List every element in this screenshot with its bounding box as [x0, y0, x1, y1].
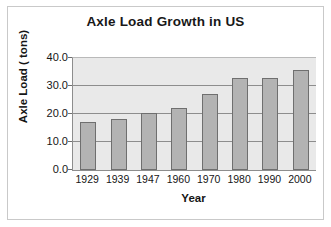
x-axis-tick-label: 1980	[224, 173, 254, 187]
bar-slot	[225, 58, 255, 170]
bar-slot	[195, 58, 225, 170]
x-axis-tick-label: 1970	[194, 173, 224, 187]
x-axis-tick-label: 2000	[285, 173, 315, 187]
bar	[111, 119, 127, 170]
bar	[262, 78, 278, 170]
x-axis-tick-label: 1939	[102, 173, 132, 187]
bar	[80, 122, 96, 170]
y-axis-tick-label: 20.0	[26, 108, 68, 119]
bar	[232, 78, 248, 170]
y-axis-tick-label: 0.0	[26, 164, 68, 175]
x-axis-tick-label: 1929	[72, 173, 102, 187]
bar-slot	[103, 58, 133, 170]
bars-layer	[73, 58, 316, 170]
bar-slot	[164, 58, 194, 170]
y-axis-tick-labels: 40.0 30.0 20.0 10.0 0.0	[26, 0, 68, 227]
y-axis-tick-label: 30.0	[26, 80, 68, 91]
x-axis-tick-label: 1947	[133, 173, 163, 187]
bar	[171, 108, 187, 170]
x-axis-tick-label: 1960	[163, 173, 193, 187]
bar-slot	[134, 58, 164, 170]
bar-slot	[255, 58, 285, 170]
x-axis-title: Year	[72, 192, 315, 205]
bar	[293, 70, 309, 170]
y-axis-tick-label: 40.0	[26, 52, 68, 63]
chart-screenshot: Axle Load Growth in US 40.0 30.0 20.0 10…	[0, 0, 331, 227]
plot-area	[72, 57, 316, 171]
x-axis-tick-labels: 19291939194719601970198019902000	[72, 173, 315, 187]
y-axis-tick-label: 10.0	[26, 136, 68, 147]
bar	[141, 113, 157, 170]
bar-slot	[73, 58, 103, 170]
y-axis-title: Axle Load ( tons)	[17, 12, 30, 142]
bar	[202, 94, 218, 170]
bar-slot	[286, 58, 316, 170]
x-axis-tick-label: 1990	[254, 173, 284, 187]
